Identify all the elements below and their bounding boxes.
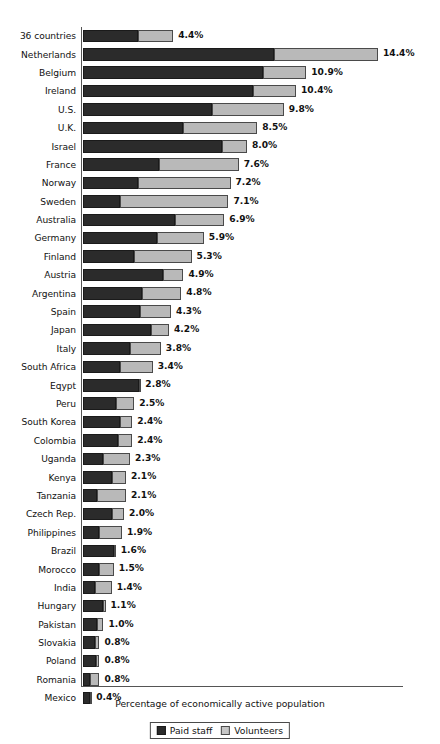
bar-value-label: 2.4% bbox=[137, 416, 162, 427]
stacked-bar bbox=[83, 453, 130, 466]
category-label: South Korea bbox=[0, 417, 76, 427]
bar-row: Japan4.2% bbox=[0, 321, 440, 339]
stacked-bar bbox=[83, 618, 103, 631]
bar-segment-volunteers bbox=[138, 177, 230, 190]
bar-row: U.S.9.8% bbox=[0, 101, 440, 119]
bar-row: Morocco1.5% bbox=[0, 560, 440, 578]
bar-segment-paid-staff bbox=[83, 600, 103, 613]
bar-segment-volunteers bbox=[95, 636, 99, 649]
bar-segment-paid-staff bbox=[83, 636, 95, 649]
bar-segment-volunteers bbox=[95, 581, 111, 594]
bar-segment-paid-staff bbox=[83, 397, 116, 410]
bar-row: Pakistan1.0% bbox=[0, 616, 440, 634]
stacked-bar bbox=[83, 66, 306, 79]
bar-value-label: 1.6% bbox=[121, 545, 146, 556]
bar-segment-volunteers bbox=[139, 379, 141, 392]
category-label: Pakistan bbox=[0, 620, 76, 630]
bar-value-label: 7.2% bbox=[236, 177, 261, 188]
stacked-bar bbox=[83, 508, 124, 521]
legend-item-volunteers: Volunteers bbox=[221, 725, 283, 736]
category-label: Norway bbox=[0, 178, 76, 188]
chart-legend: Paid staff Volunteers bbox=[150, 722, 290, 739]
bar-value-label: 4.4% bbox=[178, 30, 203, 41]
bar-rows: 36 countries4.4%Netherlands14.4%Belgium1… bbox=[0, 27, 440, 707]
bar-value-label: 0.8% bbox=[104, 674, 129, 685]
bar-value-label: 3.8% bbox=[166, 343, 191, 354]
bar-segment-paid-staff bbox=[83, 434, 118, 447]
bar-segment-volunteers bbox=[183, 122, 257, 135]
bar-segment-volunteers bbox=[97, 489, 126, 502]
bar-value-label: 2.5% bbox=[139, 398, 164, 409]
bar-value-label: 1.0% bbox=[108, 619, 133, 630]
stacked-bar bbox=[83, 158, 239, 171]
bar-segment-paid-staff bbox=[83, 250, 134, 263]
bar-value-label: 7.6% bbox=[244, 159, 269, 170]
bar-segment-paid-staff bbox=[83, 232, 157, 245]
bar-segment-volunteers bbox=[114, 545, 116, 558]
bar-row: Philippines1.9% bbox=[0, 524, 440, 542]
bar-value-label: 8.5% bbox=[262, 122, 287, 133]
bar-segment-volunteers bbox=[120, 195, 229, 208]
bar-value-label: 2.0% bbox=[129, 508, 154, 519]
category-label: Colombia bbox=[0, 436, 76, 446]
bar-segment-volunteers bbox=[120, 416, 132, 429]
bar-row: Austria4.9% bbox=[0, 266, 440, 284]
bar-row: Norway7.2% bbox=[0, 174, 440, 192]
stacked-bar bbox=[83, 361, 153, 374]
category-label: Ireland bbox=[0, 86, 76, 96]
stacked-bar bbox=[83, 489, 126, 502]
bar-value-label: 9.8% bbox=[289, 104, 314, 115]
category-label: Romania bbox=[0, 675, 76, 685]
bar-segment-volunteers bbox=[112, 508, 124, 521]
bar-segment-paid-staff bbox=[83, 526, 99, 539]
bar-row: Peru2.5% bbox=[0, 395, 440, 413]
stacked-bar bbox=[83, 287, 181, 300]
category-label: Japan bbox=[0, 325, 76, 335]
bar-segment-paid-staff bbox=[83, 85, 253, 98]
stacked-bar bbox=[83, 673, 99, 686]
bar-value-label: 1.5% bbox=[119, 563, 144, 574]
bar-row: Argentina4.8% bbox=[0, 284, 440, 302]
bar-row: Tanzania2.1% bbox=[0, 487, 440, 505]
bar-segment-paid-staff bbox=[83, 324, 151, 337]
stacked-bar bbox=[83, 250, 192, 263]
bar-segment-paid-staff bbox=[83, 508, 112, 521]
category-label: U.S. bbox=[0, 105, 76, 115]
bar-segment-paid-staff bbox=[83, 581, 95, 594]
stacked-bar bbox=[83, 545, 116, 558]
bar-row: South Korea2.4% bbox=[0, 413, 440, 431]
bar-segment-paid-staff bbox=[83, 618, 97, 631]
category-label: Spain bbox=[0, 307, 76, 317]
bar-segment-paid-staff bbox=[83, 30, 138, 43]
bar-segment-paid-staff bbox=[83, 361, 120, 374]
stacked-bar bbox=[83, 655, 99, 668]
stacked-bar bbox=[83, 195, 228, 208]
bar-row: Australia6.9% bbox=[0, 211, 440, 229]
bar-value-label: 4.9% bbox=[188, 269, 213, 280]
bar-value-label: 2.4% bbox=[137, 435, 162, 446]
stacked-bar bbox=[83, 30, 173, 43]
category-label: Philippines bbox=[0, 528, 76, 538]
bar-segment-volunteers bbox=[142, 287, 181, 300]
stacked-bar bbox=[83, 48, 378, 61]
bar-segment-volunteers bbox=[90, 673, 99, 686]
bar-value-label: 4.8% bbox=[186, 287, 211, 298]
category-label: India bbox=[0, 583, 76, 593]
stacked-bar bbox=[83, 600, 106, 613]
bar-segment-volunteers bbox=[118, 434, 132, 447]
category-label: France bbox=[0, 160, 76, 170]
category-label: 36 countries bbox=[0, 31, 76, 41]
bar-segment-paid-staff bbox=[83, 416, 120, 429]
bar-segment-volunteers bbox=[112, 471, 126, 484]
category-label: Netherlands bbox=[0, 50, 76, 60]
bar-segment-volunteers bbox=[99, 526, 122, 539]
bar-segment-volunteers bbox=[103, 453, 130, 466]
bar-row: Uganda2.3% bbox=[0, 450, 440, 468]
bar-row: U.K.8.5% bbox=[0, 119, 440, 137]
stacked-bar bbox=[83, 581, 112, 594]
bar-row: Brazil1.6% bbox=[0, 542, 440, 560]
category-label: Brazil bbox=[0, 546, 76, 556]
bar-segment-volunteers bbox=[163, 269, 183, 282]
bar-segment-volunteers bbox=[99, 563, 113, 576]
category-label: Peru bbox=[0, 399, 76, 409]
